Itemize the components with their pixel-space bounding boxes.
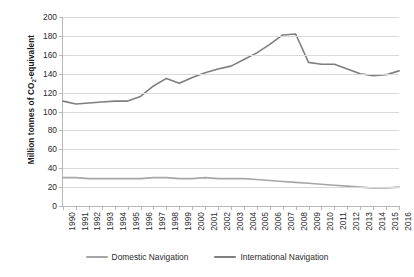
chart-legend: Domestic NavigationInternational Navigat… <box>0 252 414 262</box>
x-axis-tick-label: 1992 <box>92 212 102 231</box>
gridline <box>63 74 399 75</box>
x-axis-tick-mark <box>153 206 154 210</box>
x-axis-tick-mark <box>244 206 245 210</box>
gridline <box>63 168 399 169</box>
gridline <box>63 187 399 188</box>
x-axis-tick-mark <box>347 206 348 210</box>
x-axis-tick-mark <box>321 206 322 210</box>
y-axis-tick-label: 140 <box>43 69 57 79</box>
y-axis-tick-label: 120 <box>43 88 57 98</box>
legend-line-icon <box>214 256 236 258</box>
x-axis-tick-label: 1999 <box>183 212 193 231</box>
x-axis-tick-label: 2014 <box>377 212 387 231</box>
y-axis-tick-mark <box>59 17 63 18</box>
y-axis-title-prefix: Million tonnes of CO <box>27 83 36 165</box>
legend-item[interactable]: International Navigation <box>214 252 328 262</box>
x-axis-tick-mark <box>89 206 90 210</box>
y-axis-tick-mark <box>59 112 63 113</box>
x-axis-tick-label: 1993 <box>105 212 115 231</box>
legend-line-icon <box>86 256 108 258</box>
x-axis-tick-mark <box>141 206 142 210</box>
gridline <box>63 130 399 131</box>
gridline <box>63 36 399 37</box>
x-axis-tick-mark <box>179 206 180 210</box>
y-axis-tick-mark <box>59 168 63 169</box>
x-axis-tick-mark <box>270 206 271 210</box>
x-axis-tick-mark <box>373 206 374 210</box>
x-axis-tick-mark <box>360 206 361 210</box>
x-axis-tick-label: 2002 <box>222 212 232 231</box>
x-axis-tick-label: 2003 <box>235 212 245 231</box>
x-axis-tick-label: 2001 <box>209 212 219 231</box>
x-axis-tick-label: 2007 <box>286 212 296 231</box>
x-axis-tick-label: 1991 <box>80 212 90 231</box>
x-axis-tick-mark <box>334 206 335 210</box>
y-axis-tick-label: 20 <box>48 182 57 192</box>
x-axis-tick-label: 2000 <box>196 212 206 231</box>
y-axis-tick-label: 200 <box>43 12 57 22</box>
y-axis-tick-label: 100 <box>43 107 57 117</box>
x-axis-tick-label: 1990 <box>67 212 77 231</box>
x-axis-tick-label: 1996 <box>144 212 154 231</box>
x-axis-tick-mark <box>205 206 206 210</box>
x-axis-tick-mark <box>218 206 219 210</box>
x-axis-tick-label: 2012 <box>351 212 361 231</box>
x-axis-tick-mark <box>115 206 116 210</box>
y-axis-tick-label: 0 <box>52 201 57 211</box>
x-axis-tick-label: 2011 <box>338 212 348 230</box>
legend-item[interactable]: Domestic Navigation <box>86 252 189 262</box>
x-axis-tick-mark <box>309 206 310 210</box>
x-axis-tick-label: 2013 <box>364 212 374 231</box>
x-axis-tick-label: 1997 <box>157 212 167 231</box>
x-axis-tick-label: 2009 <box>312 212 322 231</box>
gridline <box>63 55 399 56</box>
y-axis-tick-mark <box>59 187 63 188</box>
y-axis-tick-label: 60 <box>48 144 57 154</box>
legend-item-label: Domestic Navigation <box>112 252 189 262</box>
x-axis-tick-label: 2010 <box>325 212 335 231</box>
y-axis-title-suffix: -equivalent <box>27 35 36 79</box>
x-axis-tick-mark <box>283 206 284 210</box>
x-axis-tick-label: 2016 <box>403 212 413 231</box>
x-axis-tick-label: 2006 <box>273 212 283 231</box>
gridline <box>63 93 399 94</box>
y-axis-tick-mark <box>59 149 63 150</box>
y-axis-tick-mark <box>59 74 63 75</box>
x-axis-tick-mark <box>296 206 297 210</box>
gridline <box>63 149 399 150</box>
y-axis-tick-mark <box>59 55 63 56</box>
chart-container: Million tonnes of CO2-equivalent 0204060… <box>0 0 414 277</box>
x-axis-tick-label: 1995 <box>131 212 141 231</box>
y-axis-tick-mark <box>59 36 63 37</box>
x-axis-tick-mark <box>399 206 400 210</box>
legend-item-label: International Navigation <box>240 252 328 262</box>
y-axis-title-subscript: 2 <box>31 79 37 82</box>
x-axis-tick-label: 2015 <box>390 212 400 231</box>
x-axis-tick-mark <box>128 206 129 210</box>
y-axis-tick-label: 80 <box>48 125 57 135</box>
y-axis-tick-label: 180 <box>43 31 57 41</box>
x-axis-tick-label: 2008 <box>299 212 309 231</box>
y-axis-tick-mark <box>59 130 63 131</box>
y-axis-tick-label: 40 <box>48 163 57 173</box>
x-axis-tick-label: 1998 <box>170 212 180 231</box>
x-axis-tick-label: 2004 <box>248 212 258 231</box>
y-axis-tick-mark <box>59 93 63 94</box>
x-axis-tick-mark <box>231 206 232 210</box>
x-axis-tick-mark <box>257 206 258 210</box>
y-axis-tick-label: 160 <box>43 50 57 60</box>
x-axis-tick-mark <box>166 206 167 210</box>
x-axis-tick-mark <box>76 206 77 210</box>
x-axis-tick-mark <box>386 206 387 210</box>
x-axis-tick-mark <box>192 206 193 210</box>
x-axis-tick-label: 2005 <box>260 212 270 231</box>
y-axis-title: Million tonnes of CO2-equivalent <box>27 15 36 185</box>
gridline <box>63 17 399 18</box>
gridline <box>63 112 399 113</box>
x-axis-tick-label: 1994 <box>118 212 128 231</box>
x-axis-tick-mark <box>63 206 64 210</box>
x-axis-tick-mark <box>102 206 103 210</box>
plot-area: 0204060801001201401601802001990199119921… <box>62 17 399 207</box>
